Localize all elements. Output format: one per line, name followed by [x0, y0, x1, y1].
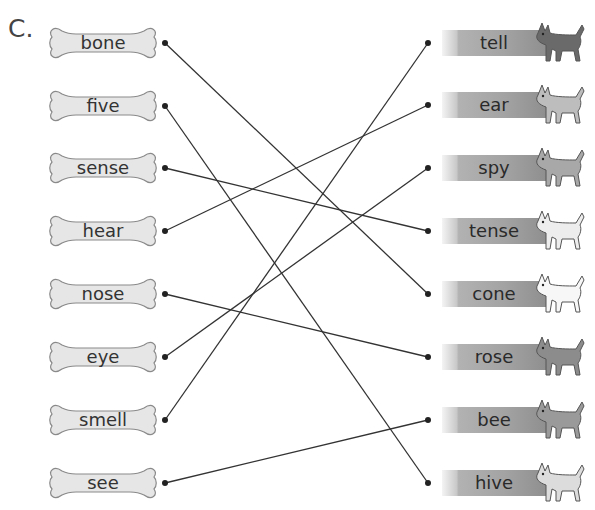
tag-label: spy: [464, 155, 524, 181]
bone-word-hear[interactable]: hear: [48, 213, 158, 249]
left-dot-sense[interactable]: [162, 165, 168, 171]
dog-word-spy[interactable]: spy: [442, 155, 546, 181]
dog-icon: [532, 207, 588, 253]
bone-word-five[interactable]: five: [48, 88, 158, 124]
right-dot-ear[interactable]: [425, 102, 431, 108]
match-line-nose-rose: [165, 294, 428, 357]
match-line-see-bee: [165, 420, 428, 483]
right-dot-tense[interactable]: [425, 228, 431, 234]
bone-word-eye[interactable]: eye: [48, 339, 158, 375]
tag-label: tense: [464, 218, 524, 244]
dog-word-tense[interactable]: tense: [442, 218, 546, 244]
dog-icon: [532, 333, 588, 379]
bone-word-see[interactable]: see: [48, 465, 158, 501]
left-dot-bone[interactable]: [162, 40, 168, 46]
dog-word-tell[interactable]: tell: [442, 30, 546, 56]
bone-label: smell: [48, 402, 158, 438]
dog-icon: [532, 81, 588, 127]
right-dot-cone[interactable]: [425, 291, 431, 297]
dog-word-rose[interactable]: rose: [442, 344, 546, 370]
dog-word-hive[interactable]: hive: [442, 470, 546, 496]
left-dot-eye[interactable]: [162, 354, 168, 360]
right-dot-spy[interactable]: [425, 165, 431, 171]
bone-label: sense: [48, 150, 158, 186]
bone-word-smell[interactable]: smell: [48, 402, 158, 438]
left-dot-hear[interactable]: [162, 228, 168, 234]
tag-label: hive: [464, 470, 524, 496]
right-dot-hive[interactable]: [425, 480, 431, 486]
right-dot-bee[interactable]: [425, 417, 431, 423]
bone-label: nose: [48, 276, 158, 312]
left-dot-smell[interactable]: [162, 417, 168, 423]
bone-label: hear: [48, 213, 158, 249]
bone-label: five: [48, 88, 158, 124]
left-dot-five[interactable]: [162, 103, 168, 109]
bone-label: eye: [48, 339, 158, 375]
bone-word-bone[interactable]: bone: [48, 25, 158, 61]
tag-label: bee: [464, 407, 524, 433]
dog-icon: [532, 396, 588, 442]
left-dot-nose[interactable]: [162, 291, 168, 297]
dog-word-ear[interactable]: ear: [442, 92, 546, 118]
bone-label: bone: [48, 25, 158, 61]
dog-icon: [532, 144, 588, 190]
dog-icon: [532, 19, 588, 65]
bone-label: see: [48, 465, 158, 501]
dog-icon: [532, 459, 588, 505]
dog-icon: [532, 270, 588, 316]
tag-label: ear: [464, 92, 524, 118]
dog-word-bee[interactable]: bee: [442, 407, 546, 433]
tag-label: cone: [464, 281, 524, 307]
tag-label: rose: [464, 344, 524, 370]
match-line-sense-tense: [165, 168, 428, 231]
match-line-hear-ear: [165, 105, 428, 231]
dog-word-cone[interactable]: cone: [442, 281, 546, 307]
match-line-eye-spy: [165, 168, 428, 357]
right-dot-tell[interactable]: [425, 40, 431, 46]
bone-word-nose[interactable]: nose: [48, 276, 158, 312]
bone-word-sense[interactable]: sense: [48, 150, 158, 186]
right-dot-rose[interactable]: [425, 354, 431, 360]
match-line-smell-tell: [165, 43, 428, 420]
match-line-five-hive: [165, 106, 428, 483]
left-dot-see[interactable]: [162, 480, 168, 486]
tag-label: tell: [464, 30, 524, 56]
